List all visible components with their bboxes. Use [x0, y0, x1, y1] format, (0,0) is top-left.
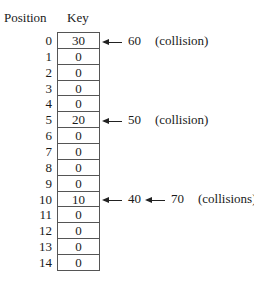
position-label: 8 [22, 160, 52, 175]
position-label: 1 [22, 49, 52, 64]
position-label: 2 [22, 65, 52, 80]
table-row: 1010 [57, 191, 100, 207]
position-label: 3 [22, 81, 52, 96]
key-cell: 0 [57, 238, 100, 255]
collided-key: 60 [128, 33, 141, 48]
collision-annotation-row-10: 4070(collisions) [104, 191, 254, 206]
position-label: 6 [22, 128, 52, 143]
table-row: 40 [57, 95, 100, 111]
table-row: 80 [57, 159, 100, 175]
table-row: 110 [57, 206, 100, 222]
key-cell: 0 [57, 222, 100, 239]
key-cell: 30 [57, 32, 100, 49]
key-cell: 0 [57, 206, 100, 223]
left-arrow-icon [104, 42, 122, 43]
collision-note: (collision) [155, 33, 208, 48]
key-cell: 0 [57, 175, 100, 192]
table-row: 120 [57, 222, 100, 238]
key-cell: 0 [57, 64, 100, 81]
key-cell: 0 [57, 254, 100, 271]
position-label: 5 [22, 112, 52, 127]
table-row: 030 [57, 32, 100, 48]
position-label: 10 [22, 192, 52, 207]
collision-note: (collisions) [198, 191, 254, 206]
key-cell: 0 [57, 159, 100, 176]
left-arrow-icon [104, 200, 122, 201]
collision-note: (collision) [155, 112, 208, 127]
table-row: 520 [57, 111, 100, 127]
position-label: 9 [22, 176, 52, 191]
position-label: 4 [22, 96, 52, 111]
key-cell: 0 [57, 95, 100, 112]
table-row: 70 [57, 143, 100, 159]
position-label: 0 [22, 33, 52, 48]
position-column-header: Position [4, 10, 47, 26]
collision-annotation-row-5: 50(collision) [104, 112, 208, 127]
key-cell: 10 [57, 191, 100, 208]
collision-annotation-row-0: 60(collision) [104, 33, 208, 48]
key-cell: 20 [57, 111, 100, 128]
table-row: 60 [57, 127, 100, 143]
key-cell: 0 [57, 143, 100, 160]
key-cell: 0 [57, 127, 100, 144]
key-column-header: Key [67, 10, 89, 26]
position-label: 13 [22, 239, 52, 254]
table-row: 90 [57, 175, 100, 191]
left-arrow-icon [104, 121, 122, 122]
key-cell: 0 [57, 80, 100, 97]
collided-key: 40 [128, 191, 141, 206]
hash-table: 030 10 20 30 40 520 60 70 80 90 1010 110… [57, 32, 100, 270]
table-row: 30 [57, 80, 100, 96]
key-cell: 0 [57, 48, 100, 65]
table-row: 20 [57, 64, 100, 80]
left-arrow-icon [147, 200, 165, 201]
collided-key: 50 [128, 112, 141, 127]
position-label: 7 [22, 144, 52, 159]
position-label: 12 [22, 223, 52, 238]
position-label: 14 [22, 255, 52, 270]
collided-key: 70 [171, 191, 184, 206]
table-row: 140 [57, 254, 100, 270]
table-row: 130 [57, 238, 100, 254]
position-label: 11 [22, 207, 52, 222]
table-row: 10 [57, 48, 100, 64]
